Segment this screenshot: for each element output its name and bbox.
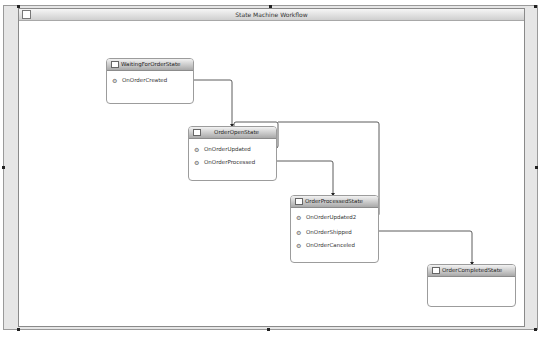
event-driven-activity[interactable]: ⚙OnOrderCanceled <box>296 241 355 249</box>
event-label: OnOrderProcessed <box>204 159 255 165</box>
state-orderprocessedstate[interactable]: OrderProcessedState ⚙OnOrderUpdated2 ⚙On… <box>290 195 379 263</box>
event-driven-activity[interactable]: ⚙OnOrderCreated <box>112 76 167 84</box>
event-driven-icon: ⚙ <box>296 230 303 236</box>
state-title: OrderCompletedState <box>442 265 513 276</box>
event-driven-icon: ⚙ <box>194 147 201 153</box>
state-header[interactable]: OrderProcessedState <box>291 196 378 208</box>
event-driven-icon: ⚙ <box>112 78 119 84</box>
state-header[interactable]: OrderCompletedState <box>428 265 515 277</box>
state-ordercompletedstate[interactable]: OrderCompletedState <box>427 264 516 307</box>
state-title: WaitingForOrderState <box>121 59 191 70</box>
event-driven-activity[interactable]: ⚙OnOrderShipped <box>296 228 352 236</box>
event-driven-activity[interactable]: ⚙OnOrderProcessed <box>194 158 255 166</box>
event-label: OnOrderUpdated <box>204 146 251 152</box>
state-waitingfororderstate[interactable]: WaitingForOrderState ⚙OnOrderCreated <box>106 58 194 104</box>
state-title: OrderOpenState <box>199 127 274 138</box>
event-label: OnOrderCreated <box>122 77 167 83</box>
event-driven-icon: ⚙ <box>194 160 201 166</box>
state-title: OrderProcessedState <box>305 196 376 207</box>
state-icon <box>295 198 303 205</box>
event-label: OnOrderUpdated2 <box>306 214 356 220</box>
initial-state-icon <box>111 61 119 68</box>
event-driven-icon: ⚙ <box>296 243 303 249</box>
event-label: OnOrderShipped <box>306 229 352 235</box>
event-driven-icon: ⚙ <box>296 215 303 221</box>
event-label: OnOrderCanceled <box>306 242 355 248</box>
state-header[interactable]: WaitingForOrderState <box>107 59 193 71</box>
state-orderopenstate[interactable]: OrderOpenState ⚙OnOrderUpdated ⚙OnOrderP… <box>188 126 277 181</box>
state-header[interactable]: OrderOpenState <box>189 127 276 139</box>
completed-state-icon <box>432 267 440 274</box>
event-driven-activity[interactable]: ⚙OnOrderUpdated <box>194 145 251 153</box>
event-driven-activity[interactable]: ⚙OnOrderUpdated2 <box>296 213 356 221</box>
